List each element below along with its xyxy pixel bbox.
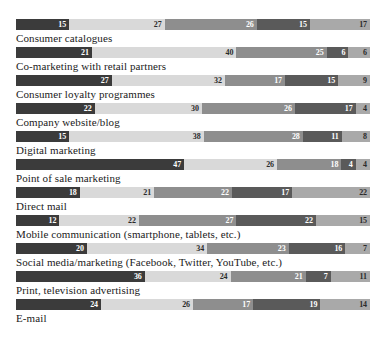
chart-row: 362421711Print, television advertising — [16, 271, 372, 299]
stacked-bar: 203423167 — [16, 243, 370, 254]
bar-segment: 11 — [303, 131, 342, 142]
bar-segment: 36 — [16, 271, 145, 282]
category-label: Consumer catalogues — [16, 30, 372, 47]
chart-row: 1222272215Mobile communication (smartpho… — [16, 215, 372, 243]
chart-row: 1527261517Consumer catalogues — [16, 19, 372, 47]
chart-row: 47261844Point of sale marketing — [16, 159, 372, 187]
bar-segment: 23 — [207, 243, 288, 254]
bar-segment: 21 — [16, 47, 92, 58]
chart-row: 2426171914E-mail — [16, 299, 372, 327]
stacked-bar: 223026174 — [16, 103, 370, 114]
stacked-bar: 1527261517 — [16, 19, 370, 30]
bar-segment: 22 — [292, 187, 370, 198]
category-label: E-mail — [16, 310, 372, 327]
stacked-bar: 153828118 — [16, 131, 370, 142]
stacked-bar: 362421711 — [16, 271, 370, 282]
bar-segment: 15 — [16, 131, 69, 142]
bar-segment: 27 — [139, 215, 237, 226]
bar-segment: 17 — [295, 103, 356, 114]
bar-segment: 7 — [306, 271, 331, 282]
category-label: Digital marketing — [16, 142, 372, 159]
bar-segment: 6 — [348, 47, 370, 58]
category-label: Mobile communication (smartphone, tablet… — [16, 226, 372, 243]
bar-segment: 4 — [356, 159, 370, 170]
stacked-bar: 273217159 — [16, 75, 370, 86]
bar-segment: 34 — [87, 243, 207, 254]
category-label: Print, television advertising — [16, 282, 372, 299]
bar-segment: 17 — [225, 75, 285, 86]
bar-segment: 18 — [277, 159, 341, 170]
stacked-bar: 2426171914 — [16, 299, 370, 310]
bar-segment: 4 — [356, 103, 370, 114]
bar-segment: 38 — [69, 131, 204, 142]
bar-segment: 25 — [236, 47, 326, 58]
category-label: Social media/marketing (Facebook, Twitte… — [16, 254, 372, 271]
stacked-bar: 47261844 — [16, 159, 370, 170]
bar-segment: 32 — [112, 75, 225, 86]
bar-segment: 26 — [184, 159, 277, 170]
bar-segment: 17 — [232, 187, 292, 198]
bar-segment: 21 — [231, 271, 306, 282]
bar-segment: 7 — [345, 243, 370, 254]
bar-segment: 16 — [289, 243, 346, 254]
bar-segment: 19 — [253, 299, 320, 310]
bar-segment: 30 — [95, 103, 202, 114]
bar-segment: 17 — [193, 299, 253, 310]
bar-segment: 26 — [101, 299, 193, 310]
bar-segment: 11 — [331, 271, 370, 282]
bar-segment: 8 — [342, 131, 370, 142]
stacked-bar: 1222272215 — [16, 215, 370, 226]
chart-row: 153828118Digital marketing — [16, 131, 372, 159]
bar-segment: 27 — [16, 75, 112, 86]
chart-row: 1821221722Direct mail — [16, 187, 372, 215]
bar-segment: 22 — [59, 215, 138, 226]
bar-segment: 22 — [154, 187, 232, 198]
bar-segment: 24 — [16, 299, 101, 310]
bar-segment: 15 — [285, 75, 338, 86]
bar-segment: 47 — [16, 159, 184, 170]
bar-segment: 27 — [69, 19, 165, 30]
bar-segment: 12 — [16, 215, 59, 226]
category-label: Company website/blog — [16, 114, 372, 131]
chart-row: 21402566Co-marketing with retail partner… — [16, 47, 372, 75]
bar-segment: 4 — [341, 159, 355, 170]
bar-segment: 6 — [327, 47, 349, 58]
bar-segment: 22 — [16, 103, 95, 114]
bar-segment: 40 — [92, 47, 236, 58]
bar-segment: 26 — [165, 19, 257, 30]
bar-segment: 9 — [338, 75, 370, 86]
bar-segment: 20 — [16, 243, 87, 254]
bar-segment: 17 — [310, 19, 370, 30]
bar-segment: 28 — [204, 131, 303, 142]
bar-segment: 18 — [16, 187, 80, 198]
chart-row: 223026174Company website/blog — [16, 103, 372, 131]
chart-row: 273217159Consumer loyalty programmes — [16, 75, 372, 103]
bar-segment: 22 — [236, 215, 315, 226]
bar-segment: 15 — [16, 19, 69, 30]
chart-rows: 1527261517Consumer catalogues21402566Co-… — [16, 0, 372, 327]
category-label: Consumer loyalty programmes — [16, 86, 372, 103]
chart-row: 203423167Social media/marketing (Faceboo… — [16, 243, 372, 271]
category-label: Point of sale marketing — [16, 170, 372, 187]
stacked-bar-chart: 1527261517Consumer catalogues21402566Co-… — [0, 0, 388, 347]
bar-segment: 15 — [316, 215, 370, 226]
category-label: Co-marketing with retail partners — [16, 58, 372, 75]
bar-segment: 15 — [257, 19, 310, 30]
bar-segment: 24 — [145, 271, 231, 282]
bar-segment: 14 — [320, 299, 370, 310]
bar-segment: 21 — [80, 187, 154, 198]
category-label: Direct mail — [16, 198, 372, 215]
bar-segment: 26 — [202, 103, 295, 114]
stacked-bar: 1821221722 — [16, 187, 370, 198]
stacked-bar: 21402566 — [16, 47, 370, 58]
